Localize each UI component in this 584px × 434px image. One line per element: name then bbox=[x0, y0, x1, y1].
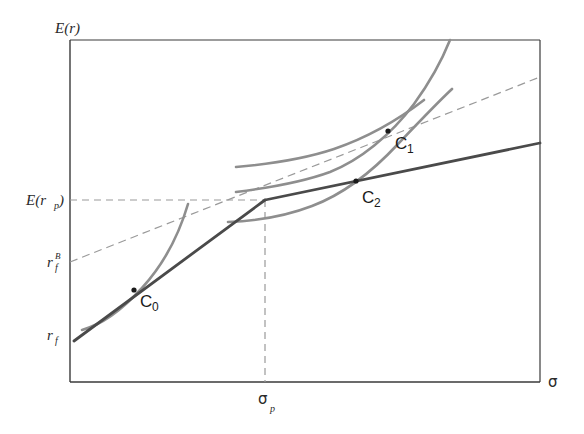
x-axis-title: σ bbox=[548, 373, 558, 391]
point-c0-label: C bbox=[140, 292, 152, 311]
point-c1-label-sub: 1 bbox=[407, 142, 414, 156]
rf-borrow-sup: B bbox=[55, 251, 61, 261]
y-axis-title: E(r) bbox=[54, 20, 80, 37]
chart-background bbox=[0, 0, 584, 434]
point-c2-label: C bbox=[362, 188, 374, 207]
point-c0-label-sub: 0 bbox=[152, 300, 159, 314]
point-c0-marker bbox=[131, 287, 136, 292]
rf-borrow-base: r bbox=[47, 254, 53, 270]
x-tick-sigma-base: σ bbox=[258, 390, 268, 408]
point-c1-marker bbox=[385, 128, 390, 133]
y-tick-erp-close: ) bbox=[58, 192, 64, 209]
point-c2-label-sub: 2 bbox=[374, 196, 381, 210]
point-c1-label: C bbox=[395, 134, 407, 153]
risk-return-chart-figure: C 0 C 1 C 2 E(r) σ E(r p ) r f B r f bbox=[0, 0, 584, 434]
x-tick-sigma-sub: p bbox=[269, 403, 275, 414]
rf-lend-base: r bbox=[47, 327, 53, 343]
chart-svg: C 0 C 1 C 2 E(r) σ E(r p ) r f B r f bbox=[0, 0, 584, 434]
y-tick-erp-base: E(r bbox=[25, 192, 46, 209]
point-c2-marker bbox=[353, 178, 358, 183]
